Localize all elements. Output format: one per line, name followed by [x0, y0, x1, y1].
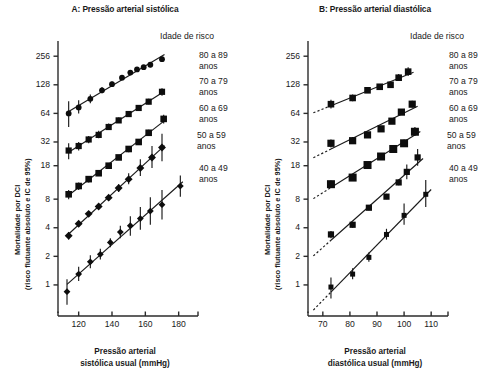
figure-root: A: Pressão arterial sistólica Idade de r… [0, 0, 500, 385]
panel-b-plot [250, 0, 500, 385]
panel-a-plot [0, 0, 250, 385]
panel-b-diastolic: B: Pressão arterial diastólica Idade de … [250, 0, 500, 385]
panel-a-systolic: A: Pressão arterial sistólica Idade de r… [0, 0, 250, 385]
